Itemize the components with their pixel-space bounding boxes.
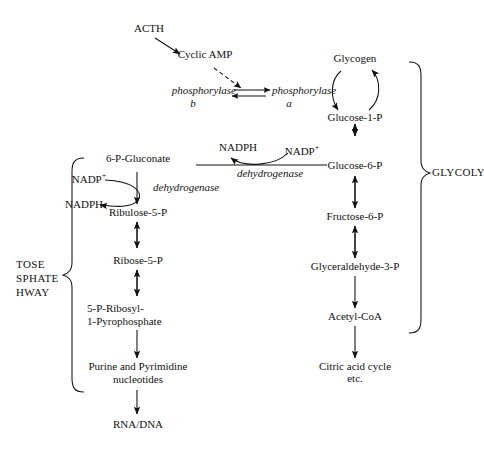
node-phosphorylase-b-subscript: b [173,97,213,110]
node-prpp-line1: 5-P-Ribosyl- [87,302,189,315]
left-brace-label-line3: HWAY [16,286,50,299]
node-glucose-6-p: Glucose-6-P [314,159,396,172]
right-brace-label: GLYCOLY [432,166,484,179]
pathway-diagram: ACTH Cyclic AMP phosphorylase b phosphor… [0,0,484,449]
node-cyclic-amp: Cyclic AMP [155,48,255,61]
node-citric-acid-cycle-line2: etc. [298,372,412,385]
label-nadp-plus-left-text: NADP [72,173,102,185]
node-ribulose-5-p: Ribulose-5-P [98,206,178,219]
node-acth: ACTH [114,22,184,35]
node-ribose-5-p: Ribose-5-P [100,254,176,267]
node-phosphorylase-b: phosphorylase [150,84,236,97]
label-nadp-plus-top: NADP+ [276,141,328,158]
label-nadp-plus-left-charge: + [102,171,107,180]
right-brace [409,62,430,333]
node-phosphorylase-a-subscript: a [269,97,309,110]
node-phosphorylase-a: phosphorylase [272,84,358,97]
node-rna-dna: RNA/DNA [102,418,174,431]
node-acetyl-coa: Acetyl-CoA [318,310,392,323]
label-nadp-plus-left: NADP+ [63,169,115,186]
node-fructose-6-p: Fructose-6-P [313,210,397,223]
node-6-p-gluconate: 6-P-Gluconate [96,152,180,165]
left-brace-label-line2: SPHATE [16,272,59,285]
label-dehydrogenase-left: dehydrogenase [153,181,249,194]
arrow-glucose1p-to-glycogen [369,70,379,110]
left-brace [63,158,84,392]
node-purine-pyrimidine-line1: Purine and Pyrimidine [78,360,198,373]
label-dehydrogenase-top: dehydrogenase [222,167,318,180]
node-purine-pyrimidine-line2: nucleotides [78,373,198,386]
label-nadp-plus-top-text: NADP [285,145,315,157]
label-nadp-plus-top-charge: + [315,143,320,152]
label-nadph-top: NADPH [212,141,264,154]
node-prpp-line2: 1-Pyrophosphate [87,315,189,328]
left-brace-label-line1: TOSE [16,258,45,271]
node-glyceraldehyde-3-p: Glyceraldehyde-3-P [299,260,411,273]
node-glucose-1-p: Glucose-1-P [314,111,396,124]
label-nadph-left: NADPH [58,198,110,211]
node-glycogen: Glycogen [320,52,390,65]
